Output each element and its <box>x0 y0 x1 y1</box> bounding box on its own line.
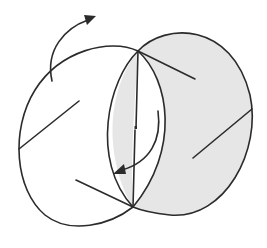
rotation-arrow-top-icon <box>51 15 96 81</box>
radius-line-left <box>19 101 79 149</box>
rotation-diagram <box>0 0 267 248</box>
